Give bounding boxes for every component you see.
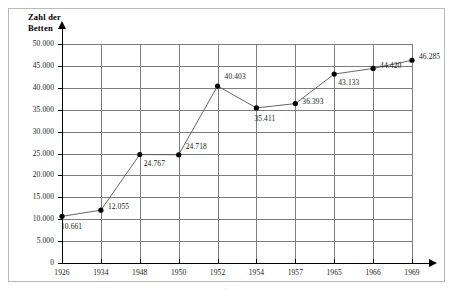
chart-figure: Zahl der Betten 05.00010.00015.00020.000… (0, 0, 454, 292)
data-point-label: 46.285 (419, 52, 440, 61)
series-line (62, 60, 412, 216)
data-point-label: 24.767 (144, 159, 165, 168)
data-point-label: 35.411 (254, 114, 275, 123)
data-point-marker (59, 214, 64, 219)
data-point-label: 43.133 (338, 78, 359, 87)
data-point-marker (137, 152, 142, 157)
data-point-label: 24.718 (186, 142, 207, 151)
data-point-label: 10.661 (61, 222, 82, 231)
data-point-label: 40.403 (225, 72, 246, 81)
data-point-label: 44.420 (380, 61, 401, 70)
data-point-marker (332, 71, 337, 76)
data-point-marker (371, 66, 376, 71)
data-point-label: 12.055 (108, 202, 129, 211)
data-point-marker (293, 101, 298, 106)
data-series (0, 0, 454, 292)
series-markers (59, 58, 414, 219)
data-point-marker (409, 58, 414, 63)
data-point-marker (254, 105, 259, 110)
footer-mark: . (225, 285, 226, 290)
data-point-marker (215, 83, 220, 88)
data-point-marker (176, 152, 181, 157)
data-point-label: 36.393 (302, 97, 323, 106)
data-point-marker (98, 208, 103, 213)
